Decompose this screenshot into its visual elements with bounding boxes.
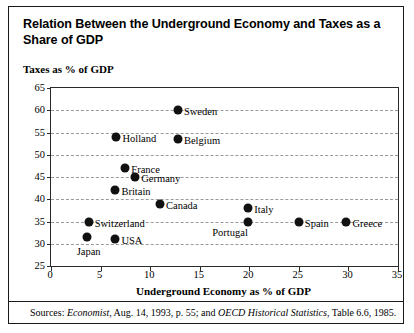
x-tick-label: 35 (392, 269, 403, 280)
x-tick-label: 10 (144, 269, 155, 280)
data-point-usa[interactable] (111, 235, 120, 244)
data-point-britain[interactable] (111, 186, 120, 195)
plot-area: SwedenHollandBelgiumFranceGermanyBritain… (50, 87, 399, 267)
y-tick-label: 30 (21, 237, 45, 248)
data-point-label-italy: Italy (254, 204, 273, 215)
data-point-italy[interactable] (244, 204, 253, 213)
y-tick-label: 45 (21, 171, 45, 182)
y-tick-label: 35 (21, 215, 45, 226)
data-point-spain[interactable] (294, 217, 303, 226)
y-tick-label: 65 (21, 82, 45, 93)
x-tick-label: 15 (193, 269, 204, 280)
y-tick-mark (47, 244, 51, 245)
x-tick-label: 5 (97, 269, 102, 280)
x-tick-label: 0 (47, 269, 52, 280)
data-point-sweden[interactable] (173, 106, 182, 115)
y-tick-mark (47, 110, 51, 111)
y-tick-label: 50 (21, 148, 45, 159)
data-point-switzerland[interactable] (84, 217, 93, 226)
data-point-label-belgium: Belgium (184, 135, 220, 146)
y-tick-mark (47, 88, 51, 89)
data-point-japan[interactable] (82, 233, 91, 242)
y-tick-mark (47, 222, 51, 223)
data-point-greece[interactable] (342, 217, 351, 226)
y-tick-mark (47, 133, 51, 134)
data-point-label-canada: Canada (166, 199, 198, 210)
y-tick-mark (47, 155, 51, 156)
data-point-label-greece: Greece (352, 217, 382, 228)
source-middle: , Aug. 14, 1993, p. 55; and (109, 307, 218, 318)
data-point-label-usa: USA (121, 235, 142, 246)
data-point-label-portugal: Portugal (212, 226, 248, 237)
data-point-holland[interactable] (112, 132, 121, 141)
source-divider (9, 301, 403, 302)
data-point-canada[interactable] (156, 199, 165, 208)
y-gridline (51, 199, 398, 200)
y-tick-label: 40 (21, 193, 45, 204)
y-gridline (51, 155, 398, 156)
x-tick-label: 25 (293, 269, 304, 280)
figure-container: Relation Between the Underground Economy… (8, 6, 404, 324)
y-gridline (51, 110, 398, 111)
y-tick-label: 60 (21, 104, 45, 115)
data-point-label-holland: Holland (122, 132, 156, 143)
y-tick-mark (47, 177, 51, 178)
data-point-belgium[interactable] (173, 135, 182, 144)
x-tick-label: 30 (342, 269, 353, 280)
y-tick-mark (47, 199, 51, 200)
source-suffix: , Table 6.6, 1985. (327, 307, 396, 318)
data-point-label-japan: Japan (77, 246, 101, 257)
data-point-germany[interactable] (131, 173, 140, 182)
data-point-label-britain: Britain (121, 186, 150, 197)
source-prefix: Sources: (30, 307, 64, 318)
source-publication-oecd: OECD Historical Statistics (218, 307, 327, 318)
data-point-label-switzerland: Switzerland (95, 217, 145, 228)
y-gridline (51, 177, 398, 178)
y-tick-label: 25 (21, 260, 45, 271)
y-axis-label: Taxes as % of GDP (23, 63, 114, 75)
y-tick-label: 55 (21, 126, 45, 137)
data-point-label-spain: Spain (305, 217, 329, 228)
y-gridline (51, 133, 398, 134)
x-axis-label: Underground Economy as % of GDP (50, 285, 397, 297)
data-point-france[interactable] (121, 164, 130, 173)
page-title: Relation Between the Underground Economy… (23, 16, 383, 48)
x-tick-label: 20 (243, 269, 254, 280)
data-point-label-germany: Germany (141, 173, 180, 184)
source-note: Sources: Economist, Aug. 14, 1993, p. 55… (30, 307, 396, 318)
data-point-portugal[interactable] (244, 217, 253, 226)
source-publication-economist: Economist (67, 307, 109, 318)
y-gridline (51, 244, 398, 245)
data-point-label-sweden: Sweden (184, 106, 217, 117)
